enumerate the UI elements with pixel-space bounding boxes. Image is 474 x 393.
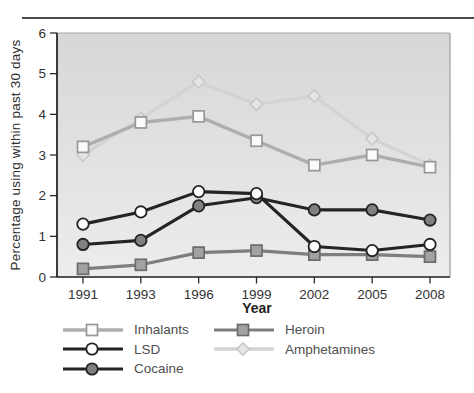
heroin-marker <box>251 245 262 256</box>
cocaine-marker <box>77 239 88 250</box>
x-tick-label: 2005 <box>357 287 387 302</box>
y-axis-title: Percentage using within past 30 days <box>8 40 23 271</box>
legend-label-lsd: LSD <box>134 342 160 357</box>
heroin-marker <box>238 324 249 335</box>
inhalants-marker <box>309 160 320 171</box>
inhalants-marker <box>425 162 436 173</box>
legend-item-amphetamines: Amphetamines <box>213 340 375 360</box>
cocaine-marker <box>86 363 97 374</box>
lsd-marker <box>193 186 204 197</box>
legend-label-inhalants: Inhalants <box>134 322 189 337</box>
lsd-marker <box>77 218 88 229</box>
inhalants-marker <box>367 150 378 161</box>
legend-label-heroin: Heroin <box>285 322 325 337</box>
heroin-marker <box>135 259 146 270</box>
cocaine-marker <box>366 204 377 215</box>
amphetamines-marker <box>237 343 249 355</box>
legend-item-cocaine: Cocaine <box>62 359 189 379</box>
legend-column-1: InhalantsLSDCocaine <box>62 320 189 379</box>
cocaine-marker <box>309 204 320 215</box>
x-tick-label: 1993 <box>126 287 156 302</box>
figure: 01234561991199319961999200220052008 Perc… <box>0 0 474 393</box>
cocaine-legend-swatch-icon <box>62 361 124 377</box>
heroin-marker <box>78 263 89 274</box>
legend-item-inhalants: Inhalants <box>62 320 189 340</box>
heroin-marker <box>425 251 436 262</box>
lsd-marker <box>135 206 146 217</box>
x-tick-label: 1996 <box>184 287 214 302</box>
lsd-marker <box>309 241 320 252</box>
y-tick-label: 1 <box>38 229 46 244</box>
lsd-marker <box>424 239 435 250</box>
inhalants-marker <box>78 141 89 152</box>
inhalants-marker <box>135 117 146 128</box>
heroin-legend-swatch-icon <box>213 322 275 338</box>
y-tick-label: 6 <box>38 26 46 41</box>
y-tick-label: 4 <box>38 107 46 122</box>
legend-column-2: HeroinAmphetamines <box>213 320 375 359</box>
heroin-marker <box>193 247 204 258</box>
y-tick-label: 0 <box>38 270 46 285</box>
lsd-marker <box>86 344 97 355</box>
plot-area <box>57 33 450 277</box>
legend-label-amphetamines: Amphetamines <box>285 342 375 357</box>
inhalants-marker <box>193 111 204 122</box>
y-tick-label: 2 <box>38 188 46 203</box>
cocaine-marker <box>135 235 146 246</box>
x-tick-label: 2002 <box>299 287 329 302</box>
legend: InhalantsLSDCocaineHeroinAmphetamines <box>0 320 474 386</box>
amphetamines-legend-swatch-icon <box>213 341 275 357</box>
legend-item-heroin: Heroin <box>213 320 375 340</box>
lsd-marker <box>251 188 262 199</box>
x-axis-title: Year <box>242 300 272 316</box>
y-tick-label: 5 <box>38 66 46 81</box>
lsd-legend-swatch-icon <box>62 341 124 357</box>
y-tick-label: 3 <box>38 148 46 163</box>
x-tick-label: 1991 <box>68 287 98 302</box>
cocaine-marker <box>193 200 204 211</box>
x-tick-label: 2008 <box>415 287 445 302</box>
inhalants-legend-swatch-icon <box>62 322 124 338</box>
legend-label-cocaine: Cocaine <box>134 361 184 376</box>
inhalants-marker <box>87 324 98 335</box>
inhalants-marker <box>251 135 262 146</box>
cocaine-marker <box>424 214 435 225</box>
lsd-marker <box>366 245 377 256</box>
legend-item-lsd: LSD <box>62 340 189 360</box>
